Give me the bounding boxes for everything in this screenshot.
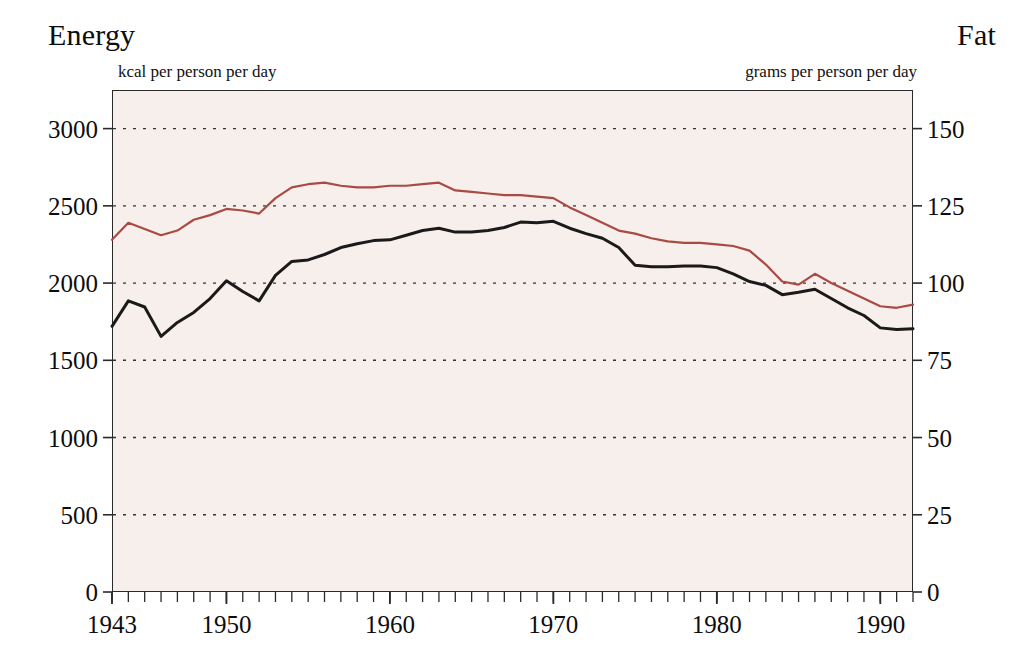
ytick-label-left: 1500 xyxy=(48,348,98,373)
ytick-label-right: 125 xyxy=(927,193,965,218)
ytick-label-left: 1000 xyxy=(48,425,98,450)
ytick-label-right: 50 xyxy=(927,425,952,450)
fat-axis-title: Fat xyxy=(957,18,996,52)
xtick-label: 1990 xyxy=(855,612,905,637)
ytick-label-left: 3000 xyxy=(48,116,98,141)
xtick-label: 1943 xyxy=(87,612,137,637)
ytick-label-right: 75 xyxy=(927,348,952,373)
plot-area xyxy=(112,90,913,592)
ytick-label-right: 0 xyxy=(927,580,940,605)
energy-axis-title: Energy xyxy=(48,18,135,52)
ytick-label-right: 100 xyxy=(927,271,965,296)
ytick-label-left: 0 xyxy=(86,580,99,605)
left-unit-label: kcal per person per day xyxy=(118,62,277,82)
ytick-label-left: 2000 xyxy=(48,271,98,296)
right-unit-label: grams per person per day xyxy=(745,62,917,82)
xtick-label: 1960 xyxy=(365,612,415,637)
xtick-label: 1950 xyxy=(201,612,251,637)
xtick-label: 1980 xyxy=(692,612,742,637)
chart-figure: Energy Fat kcal per person per day grams… xyxy=(0,0,1014,655)
ytick-label-right: 150 xyxy=(927,116,965,141)
ytick-label-right: 25 xyxy=(927,502,952,527)
ytick-label-left: 500 xyxy=(61,502,99,527)
ytick-label-left: 2500 xyxy=(48,193,98,218)
xtick-label: 1970 xyxy=(528,612,578,637)
